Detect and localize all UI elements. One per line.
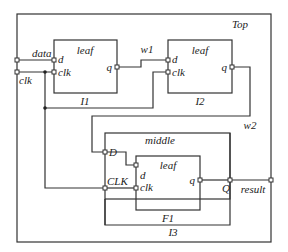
f1-q-label: q <box>190 174 196 186</box>
i1-d-port <box>52 58 56 62</box>
i3-Q-port <box>228 178 232 182</box>
result-port-label: result <box>241 183 267 195</box>
f1-instance-label: F1 <box>161 212 174 224</box>
i3-CLK-port <box>103 186 107 190</box>
f1-clk-label: clk <box>140 181 154 193</box>
i1-q-label: q <box>107 61 113 73</box>
i2-q-label: q <box>222 61 228 73</box>
w2-wire-label: w2 <box>244 119 257 131</box>
hierarchy-diagram: Top leaf d clk q I1 leaf d clk q I2 midd… <box>0 0 288 252</box>
i1-q-port <box>115 65 119 69</box>
i2-d-label: d <box>172 53 178 65</box>
i2-d-port <box>166 58 170 62</box>
i3-CLK-label: CLK <box>107 175 128 187</box>
i3-instance-label: I3 <box>167 226 178 238</box>
i2-instance-label: I2 <box>194 95 205 107</box>
data-port <box>15 58 19 62</box>
i1-clk-port <box>52 70 56 74</box>
clk-port <box>15 70 19 74</box>
f1-d-label: d <box>140 169 146 181</box>
f1-type-label: leaf <box>160 159 178 171</box>
data-port-label: data <box>32 47 52 59</box>
f1-q-port <box>198 178 202 182</box>
f1-d-port <box>134 163 138 167</box>
i2-clk-label: clk <box>172 66 186 78</box>
i2-type-label: leaf <box>192 44 210 56</box>
w1-wire-label: w1 <box>141 43 154 55</box>
i3-Q-label: Q <box>222 182 230 194</box>
f1-clk-port <box>134 186 138 190</box>
clk-junction-mid <box>43 106 47 110</box>
top-module-label: Top <box>232 18 249 30</box>
i1-type-label: leaf <box>77 44 95 56</box>
i2-clk-port <box>166 70 170 74</box>
i3-D-port <box>103 150 107 154</box>
i1-instance-label: I1 <box>79 95 89 107</box>
clk-port-label: clk <box>19 74 33 86</box>
i3-type-label: middle <box>145 134 175 146</box>
i1-d-label: d <box>58 53 64 65</box>
i2-q-port <box>230 65 234 69</box>
w1-wire <box>117 60 168 67</box>
i1-clk-label: clk <box>58 66 72 78</box>
clk-junction-top <box>43 70 47 74</box>
result-port <box>269 178 273 182</box>
